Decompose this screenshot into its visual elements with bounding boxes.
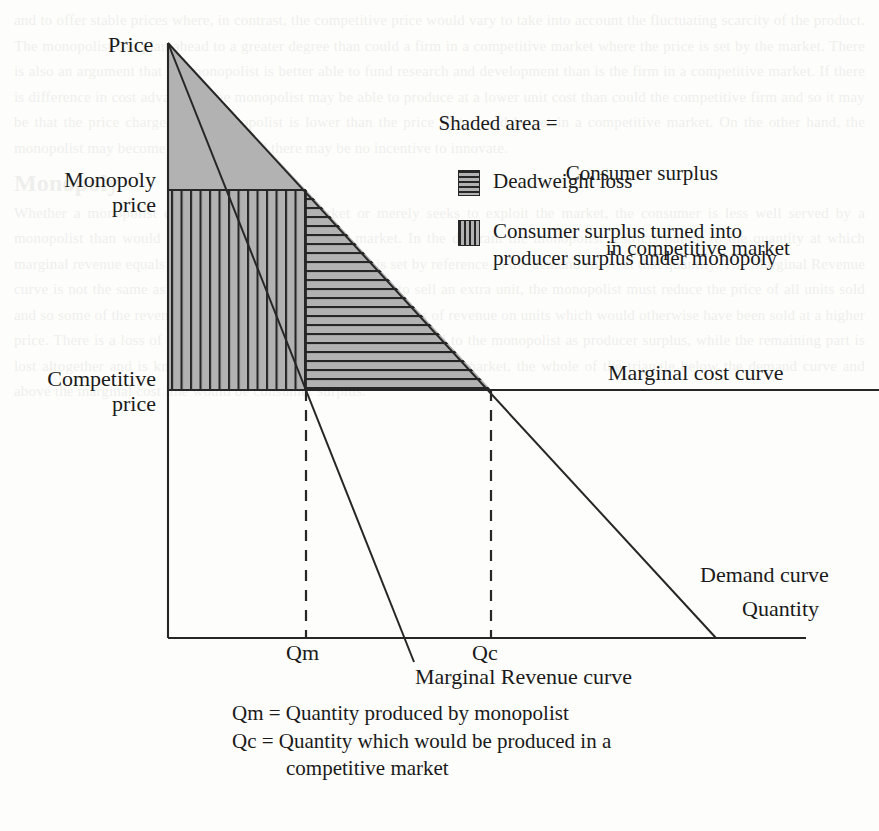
quantity-axis-label: Quantity [742,596,819,621]
legend-item-consumer-surplus-transfer: Consumer surplus turned into producer su… [458,218,777,273]
legend-label-cs-transfer-line1: Consumer surplus turned into [493,218,777,245]
qm-tick-label: Qm [286,640,319,665]
price-axis-label: Price [108,32,153,57]
shaded-area-legend: Shaded area = Consumer surplus in compet… [428,88,790,309]
legend-item-deadweight-loss: Deadweight loss [458,168,632,196]
qm-definition: Qm = Quantity produced by monopolist [232,700,611,728]
legend-label-deadweight-loss: Deadweight loss [493,168,632,195]
qc-tick-label: Qc [472,640,498,665]
diagram-page: { "axes": { "price_label": "Price", "qua… [0,0,879,831]
deadweight-loss-swatch-icon [458,170,480,196]
qc-definition-line1: Qc = Quantity which would be produced in… [232,728,611,756]
quantity-definitions: Qm = Quantity produced by monopolist Qc … [232,700,611,783]
marginal-revenue-curve-label: Marginal Revenue curve [415,664,632,689]
region-transferred-surplus [168,190,306,390]
competitive-price-label: Competitive price [20,366,156,416]
demand-curve-label: Demand curve [700,562,829,587]
legend-label-cs-transfer-line2: producer surplus under monopoly [493,245,777,272]
marginal-cost-curve-label: Marginal cost curve [608,360,784,385]
shaded-area-prefix: Shaded area = [439,112,558,136]
monopoly-price-label: Monopoly price [28,167,156,217]
qc-definition-line2: competitive market [232,755,611,783]
consumer-surplus-transfer-swatch-icon [458,220,480,246]
